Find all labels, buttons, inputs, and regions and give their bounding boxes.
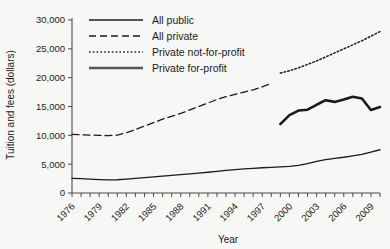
y-axis-tick-label: 10,000 — [36, 130, 65, 141]
y-axis-tick-label: 15,000 — [36, 101, 65, 112]
y-axis-tick-label: 25,000 — [36, 43, 65, 54]
legend-label-2: Private not-for-profit — [152, 46, 245, 58]
y-axis-tick-label: 0 — [60, 187, 65, 198]
y-axis-tick-label: 20,000 — [36, 72, 65, 83]
y-axis-tick-label: 30,000 — [36, 14, 65, 25]
y-axis-title: Tuition and fees (dollars) — [5, 50, 16, 160]
legend-label-3: Private for-profit — [152, 62, 227, 74]
legend-label-1: All private — [152, 30, 198, 42]
x-axis-title: Year — [218, 234, 239, 245]
legend-label-0: All public — [152, 14, 194, 26]
y-axis-tick-label: 5,000 — [41, 159, 65, 170]
tuition-and-fees-line-chart: 05,00010,00015,00020,00025,00030,000 197… — [0, 0, 390, 249]
chart-container: 05,00010,00015,00020,00025,00030,000 197… — [0, 0, 390, 249]
